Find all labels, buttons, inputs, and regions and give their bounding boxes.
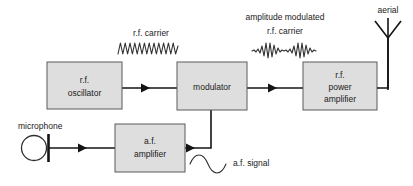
block-af-amplifier-line1: a.f.: [144, 136, 156, 146]
block-rf-power-amplifier-line3: amplifier: [324, 94, 356, 104]
block-rf-oscillator-line2: oscillator: [68, 88, 102, 98]
wire-af-amplifier-to-modulator: [185, 110, 211, 153]
label-aerial: aerial: [378, 5, 399, 15]
wire-modulator-to-power-amplifier: [247, 84, 303, 93]
waveform-am-carrier: [252, 43, 316, 58]
block-af-amplifier[interactable]: a.f. amplifier: [115, 124, 185, 172]
label-am-carrier-line2: r.f. carrier: [267, 26, 303, 36]
block-rf-oscillator-line1: r.f.: [80, 75, 89, 85]
label-microphone: microphone: [18, 121, 63, 131]
wire-oscillator-to-modulator: [122, 84, 177, 93]
block-af-amplifier-line2: amplifier: [134, 149, 166, 159]
label-rf-carrier: r.f. carrier: [133, 28, 169, 38]
block-modulator[interactable]: modulator: [177, 62, 247, 110]
waveform-af-signal: [190, 155, 226, 173]
waveform-rf-carrier: [118, 43, 178, 54]
label-am-carrier-line1: amplitude modulated: [246, 12, 325, 22]
block-rf-oscillator[interactable]: r.f. oscillator: [47, 62, 122, 109]
block-rf-power-amplifier[interactable]: r.f. power amplifier: [303, 62, 377, 110]
block-modulator-label: modulator: [193, 82, 231, 92]
block-rf-power-amplifier-line2: power: [328, 82, 351, 92]
block-rf-power-amplifier-line1: r.f.: [335, 70, 344, 80]
aerial-icon: [375, 18, 401, 90]
transmitter-block-diagram: r.f. oscillator modulator r.f. power amp…: [0, 0, 413, 186]
wire-microphone-to-af-amplifier: [49, 144, 115, 153]
microphone-icon: [22, 134, 49, 162]
label-af-signal: a.f. signal: [233, 158, 269, 168]
